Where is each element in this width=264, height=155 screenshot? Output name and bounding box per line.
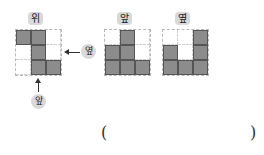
filled-cell <box>105 60 120 75</box>
filled-cell <box>193 30 208 45</box>
filled-cell <box>193 60 208 75</box>
side-direction-arrow <box>66 52 80 53</box>
front-direction-arrow <box>38 80 39 92</box>
empty-cell <box>135 45 150 60</box>
empty-cell <box>163 30 178 45</box>
filled-cell <box>31 45 46 60</box>
grid-side-view <box>162 29 209 76</box>
empty-cell <box>46 45 61 60</box>
grid-top-view <box>15 29 62 76</box>
front-direction-label: 앞 <box>31 94 46 109</box>
filled-cell <box>31 60 46 75</box>
filled-cell <box>105 45 120 60</box>
empty-cell <box>46 30 61 45</box>
filled-cell <box>135 60 150 75</box>
filled-cell <box>163 60 178 75</box>
empty-cell <box>16 45 31 60</box>
empty-cell <box>105 30 120 45</box>
filled-cell <box>46 60 61 75</box>
answer-blank[interactable] <box>112 124 248 144</box>
filled-cell <box>31 30 46 45</box>
filled-cell <box>120 60 135 75</box>
label-top-view: 위 <box>28 12 43 25</box>
label-side-view: 옆 <box>175 12 190 25</box>
grid-front-view <box>104 29 151 76</box>
answer-open-paren: ( <box>101 123 107 142</box>
empty-cell <box>16 60 31 75</box>
filled-cell <box>16 30 31 45</box>
filled-cell <box>120 45 135 60</box>
label-front-view: 앞 <box>117 12 132 25</box>
empty-cell <box>135 30 150 45</box>
side-direction-label: 옆 <box>81 44 96 59</box>
filled-cell <box>163 45 178 60</box>
answer-close-paren: ) <box>250 123 256 142</box>
filled-cell <box>120 30 135 45</box>
filled-cell <box>178 60 193 75</box>
empty-cell <box>178 45 193 60</box>
empty-cell <box>178 30 193 45</box>
filled-cell <box>193 45 208 60</box>
